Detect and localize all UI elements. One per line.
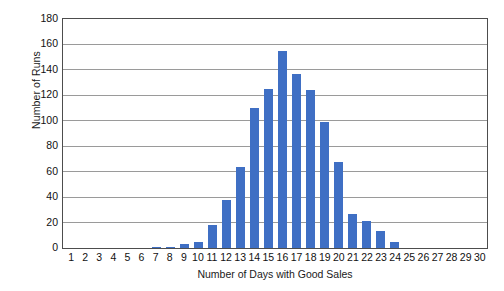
x-axis-tick-label: 11 (205, 251, 219, 263)
y-axis-tick-label: 100 (18, 114, 58, 126)
bar-slot (472, 19, 486, 248)
x-axis-title: Number of Days with Good Sales (62, 268, 488, 280)
x-axis-tick-label: 10 (191, 251, 205, 263)
histogram-chart: Number of Runs 1234567891011121314151617… (0, 0, 504, 291)
y-axis-tick-label: 80 (18, 139, 58, 151)
bar-slot (261, 19, 275, 248)
x-axis-tick-label: 17 (290, 251, 304, 263)
x-axis-tick-label: 20 (332, 251, 346, 263)
x-axis-tick-label: 3 (92, 251, 106, 263)
bar-slot (219, 19, 233, 248)
x-axis-tick-label: 7 (149, 251, 163, 263)
y-axis-tick-label: 140 (18, 63, 58, 75)
bar-slot (247, 19, 261, 248)
bar-slot (233, 19, 247, 248)
bar-slot (191, 19, 205, 248)
y-axis-tick-label: 40 (18, 190, 58, 202)
bar-slot (149, 19, 163, 248)
bar (264, 89, 273, 248)
x-axis-tick-label: 22 (360, 251, 374, 263)
bar (320, 122, 329, 248)
x-axis-tick-label: 23 (374, 251, 388, 263)
bar (208, 225, 217, 248)
bar (180, 244, 189, 248)
bar-slot (65, 19, 79, 248)
x-axis-tick-labels: 1234567891011121314151617181920212223242… (62, 251, 488, 263)
bar (348, 214, 357, 248)
x-axis-tick-label: 12 (219, 251, 233, 263)
x-axis-tick-label: 8 (163, 251, 177, 263)
bar-slot (360, 19, 374, 248)
x-axis-tick-label: 2 (78, 251, 92, 263)
bar-slot (346, 19, 360, 248)
y-axis-tick-label: 180 (18, 12, 58, 24)
bar (362, 221, 371, 248)
plot-area (62, 18, 488, 249)
bar-slot (416, 19, 430, 248)
x-axis-tick-label: 14 (247, 251, 261, 263)
x-axis-tick-label: 1 (64, 251, 78, 263)
x-axis-tick-label: 19 (318, 251, 332, 263)
bar (166, 247, 175, 248)
bar-slot (177, 19, 191, 248)
bar (152, 247, 161, 248)
x-axis-tick-label: 15 (261, 251, 275, 263)
x-axis-tick-label: 18 (304, 251, 318, 263)
y-axis-tick-label: 20 (18, 216, 58, 228)
x-axis-tick-label: 6 (134, 251, 148, 263)
bar-slot (107, 19, 121, 248)
x-axis-tick-label: 21 (346, 251, 360, 263)
bar-slot (332, 19, 346, 248)
bar-slot (290, 19, 304, 248)
x-axis-tick-label: 30 (473, 251, 487, 263)
x-axis-tick-label: 26 (416, 251, 430, 263)
bar-slot (444, 19, 458, 248)
x-axis-tick-label: 4 (106, 251, 120, 263)
y-axis-tick-label: 60 (18, 165, 58, 177)
bar (390, 242, 399, 248)
bar (292, 74, 301, 248)
y-axis-tick-label: 160 (18, 37, 58, 49)
x-axis-tick-label: 24 (388, 251, 402, 263)
y-axis-tick-label: 0 (18, 241, 58, 253)
bar-slot (163, 19, 177, 248)
x-axis-tick-label: 9 (177, 251, 191, 263)
bar-slot (374, 19, 388, 248)
x-axis-tick-label: 28 (445, 251, 459, 263)
x-axis-tick-label: 25 (402, 251, 416, 263)
bar-slot (402, 19, 416, 248)
bar (334, 162, 343, 249)
bar-slot (79, 19, 93, 248)
bar (376, 231, 385, 248)
bar-slot (458, 19, 472, 248)
x-axis-tick-label: 27 (430, 251, 444, 263)
bar (236, 167, 245, 248)
x-axis-tick-label: 29 (459, 251, 473, 263)
bar-slot (318, 19, 332, 248)
bar (222, 200, 231, 248)
bar-slot (135, 19, 149, 248)
bar-slot (388, 19, 402, 248)
x-axis-tick-label: 13 (233, 251, 247, 263)
x-axis-tick-label: 16 (275, 251, 289, 263)
y-axis-tick-label: 120 (18, 88, 58, 100)
x-axis-tick-label: 5 (120, 251, 134, 263)
bar-slot (430, 19, 444, 248)
bar-slot (121, 19, 135, 248)
bars (63, 19, 487, 248)
bar-slot (205, 19, 219, 248)
bar-slot (275, 19, 289, 248)
bar-slot (304, 19, 318, 248)
bar-slot (93, 19, 107, 248)
bar (194, 242, 203, 248)
bar (306, 90, 315, 248)
bar (278, 51, 287, 248)
bar (250, 108, 259, 248)
